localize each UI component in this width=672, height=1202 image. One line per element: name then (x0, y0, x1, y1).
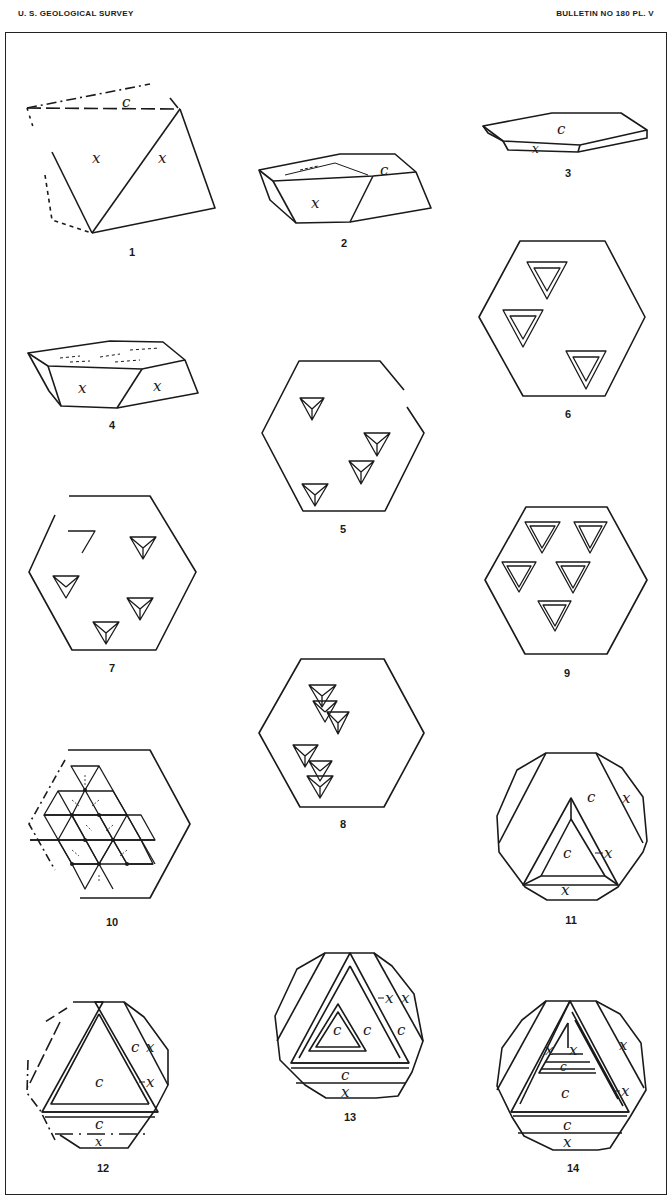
figure-13-label-x-inner: x (385, 989, 394, 1007)
figure-2-crystal: c x (259, 154, 431, 223)
figure-14-crystal: x x x c c x c x (497, 1001, 646, 1151)
figure-8-crystal (259, 659, 424, 807)
figure-12-label-c-upper: c (131, 1038, 140, 1056)
figure-14-label-x-center: x (569, 1041, 578, 1059)
figure-1-crystal: c x x (27, 84, 215, 233)
figure-number-7: 7 (109, 662, 115, 674)
figure-14-label-x-left: x (545, 1041, 554, 1059)
figure-number-8: 8 (340, 818, 346, 830)
figure-11-label-c-inner: c (563, 844, 572, 862)
figure-number-2: 2 (341, 237, 347, 249)
figure-number-13: 13 (344, 1111, 356, 1123)
figure-3-label-x: x (532, 142, 539, 156)
figure-11-label-x-upper: x (622, 789, 631, 807)
figure-number-11: 11 (565, 914, 577, 926)
figure-4-label-x-left: x (78, 379, 87, 397)
figure-1-label-x-right: x (158, 149, 167, 167)
figure-13-label-c-outer: c (397, 1021, 406, 1039)
figure-12-label-x-lower: x (95, 1134, 103, 1149)
figure-11-label-c-upper: c (587, 788, 596, 806)
figure-number-14: 14 (567, 1162, 579, 1174)
figure-12-label-c-lower: c (95, 1115, 104, 1133)
figure-12-label-x-upper: x (146, 1038, 155, 1056)
figure-11-label-x-lower: x (561, 881, 570, 899)
figure-13-label-x-lower: x (341, 1083, 350, 1101)
figure-12-label-x-mid: x (146, 1073, 155, 1091)
figure-4-label-x-right: x (153, 377, 162, 395)
figure-5-crystal (262, 361, 424, 511)
figure-14-label-c-center: c (561, 1084, 570, 1102)
figure-13-label-c-middle: c (363, 1021, 372, 1039)
figure-13-label-c-inner: c (333, 1021, 342, 1039)
figure-13-label-x-outer: x (401, 989, 410, 1007)
figure-3-crystal: c x (483, 113, 647, 156)
figure-14-label-c-lower: c (563, 1116, 572, 1134)
figure-1-label-x-left: x (92, 149, 101, 167)
figure-number-6: 6 (565, 408, 571, 420)
figure-4-crystal: x x (28, 341, 198, 408)
crystal-plate-drawing: c x x c x c x x x (0, 0, 672, 1202)
figure-14-label-x-lower: x (563, 1133, 572, 1151)
figure-number-4: 4 (109, 419, 115, 431)
figure-9-crystal (485, 507, 647, 654)
figure-1-label-c: c (122, 93, 131, 111)
figure-11-crystal: c x c x x (497, 753, 647, 900)
figure-11-label-x-inner: x (604, 844, 613, 862)
figure-number-9: 9 (564, 667, 570, 679)
figure-2-label-x: x (311, 194, 320, 212)
figure-2-label-c: c (380, 161, 389, 179)
figure-14-label-c-apex: c (560, 1060, 567, 1074)
figure-13-label-c-lower: c (341, 1066, 350, 1084)
figure-13-crystal: x x c c c c x (275, 953, 423, 1101)
figure-7-crystal (29, 496, 196, 650)
figure-number-3: 3 (565, 167, 571, 179)
figure-number-5: 5 (340, 523, 346, 535)
figure-3-label-c: c (557, 120, 566, 138)
figure-number-10: 10 (106, 916, 118, 928)
figure-6-crystal (479, 241, 645, 396)
figure-12-crystal: c x x c c x (27, 1002, 168, 1149)
figure-number-1: 1 (129, 246, 135, 258)
figure-14-label-x-mid: x (621, 1082, 630, 1100)
figure-10-crystal (29, 750, 190, 898)
figure-number-12: 12 (97, 1162, 109, 1174)
figure-14-label-x-right: x (619, 1036, 628, 1054)
figure-12-label-c-center: c (95, 1073, 104, 1091)
